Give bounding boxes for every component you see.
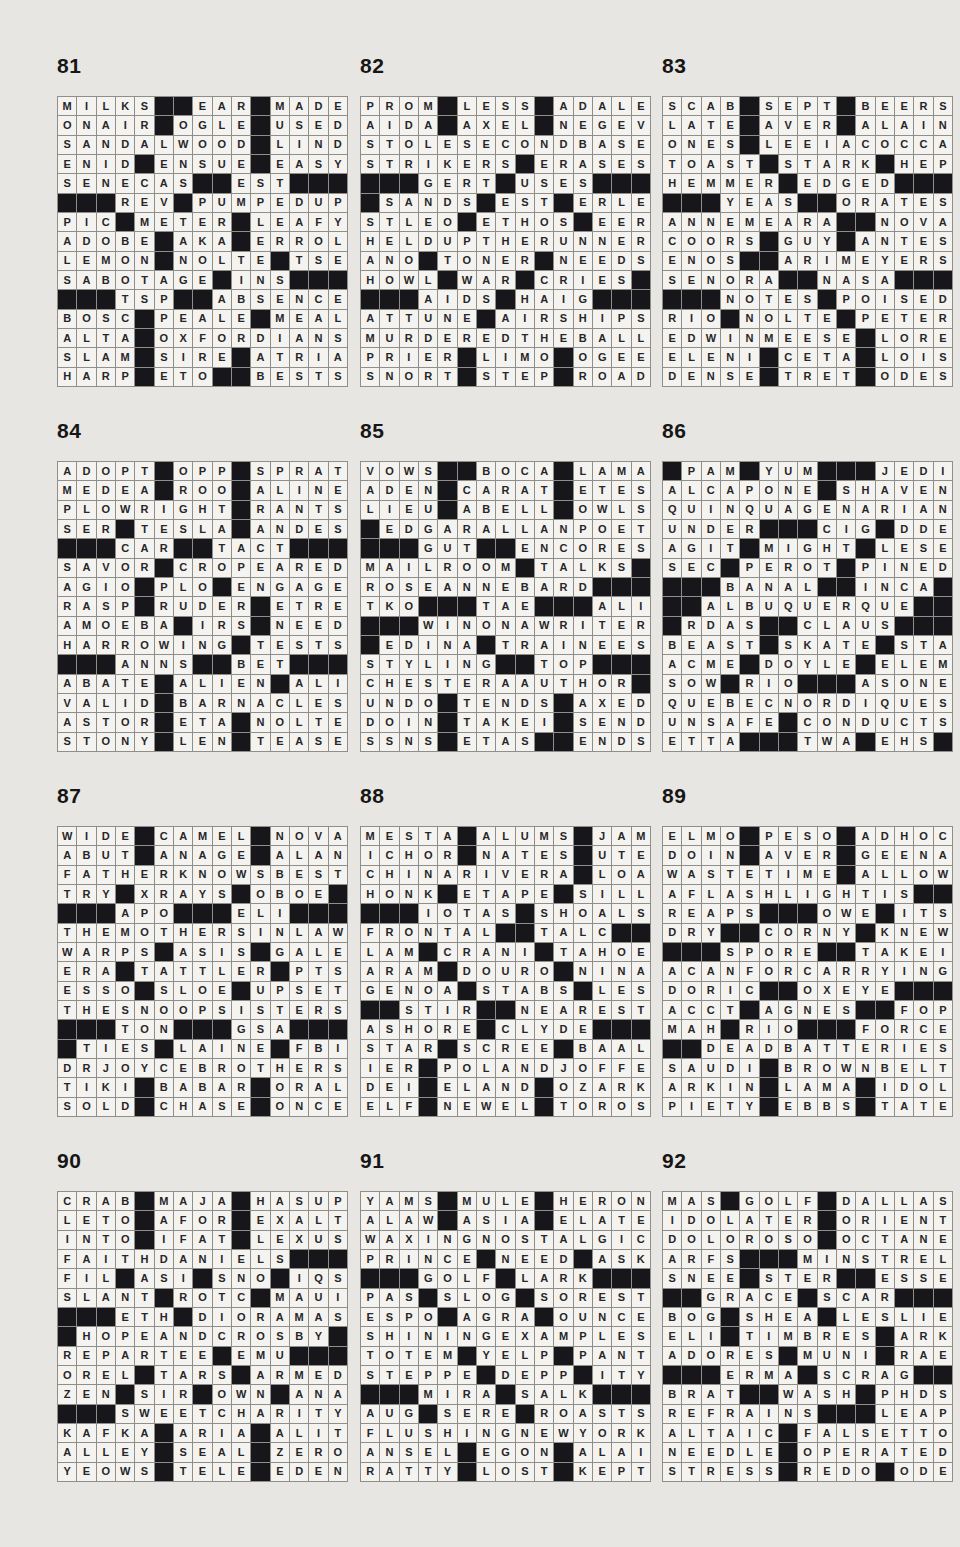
letter-cell: L	[496, 827, 514, 845]
letter-cell: O	[760, 962, 778, 980]
letter-cell: N	[438, 310, 456, 328]
letter-cell: L	[632, 1040, 650, 1058]
letter-cell: A	[380, 1231, 398, 1249]
letter-cell: T	[290, 597, 308, 615]
letter-cell: E	[174, 1059, 192, 1077]
letter-cell: H	[77, 1001, 95, 1019]
letter-cell: C	[496, 136, 514, 154]
letter-cell: S	[663, 1269, 681, 1287]
letter-cell: B	[663, 1385, 681, 1403]
letter-cell: E	[818, 368, 836, 386]
black-square	[290, 1020, 308, 1038]
letter-cell: I	[329, 1289, 347, 1307]
letter-cell: O	[380, 713, 398, 731]
letter-cell: Y	[329, 1405, 347, 1423]
letter-cell: I	[876, 1211, 894, 1229]
letter-cell: M	[58, 481, 76, 499]
letter-cell: A	[574, 1443, 592, 1461]
letter-cell: N	[740, 1078, 758, 1096]
letter-cell: B	[174, 694, 192, 712]
letter-cell: L	[58, 1211, 76, 1229]
letter-cell: P	[740, 481, 758, 499]
letter-cell: S	[309, 252, 327, 270]
letter-cell: E	[702, 348, 720, 366]
black-square	[663, 943, 681, 961]
letter-cell: T	[380, 310, 398, 328]
letter-cell: S	[779, 636, 797, 654]
letter-cell: E	[818, 1001, 836, 1019]
letter-cell: I	[400, 866, 418, 884]
letter-cell: D	[837, 1463, 855, 1481]
letter-cell: S	[174, 655, 192, 673]
letter-cell: M	[58, 97, 76, 115]
letter-cell: S	[632, 1098, 650, 1116]
letter-cell: G	[496, 1443, 514, 1461]
letter-cell: R	[798, 1463, 816, 1481]
letter-cell: L	[876, 866, 894, 884]
black-square	[663, 597, 681, 615]
black-square	[155, 943, 173, 961]
letter-cell: G	[77, 578, 95, 596]
letter-cell: R	[458, 943, 476, 961]
letter-cell: Y	[876, 252, 894, 270]
letter-cell: L	[496, 1192, 514, 1210]
letter-cell: F	[856, 1020, 874, 1038]
letter-cell: O	[135, 1020, 153, 1038]
black-square	[554, 462, 572, 480]
letter-cell: S	[58, 520, 76, 538]
letter-cell: S	[612, 1250, 630, 1268]
letter-cell: E	[77, 1347, 95, 1365]
black-square	[895, 617, 913, 635]
letter-cell: G	[213, 636, 231, 654]
letter-cell: D	[914, 1463, 932, 1481]
letter-cell: W	[663, 866, 681, 884]
letter-cell: A	[740, 1289, 758, 1307]
letter-cell: B	[477, 462, 495, 480]
black-square	[516, 924, 534, 942]
letter-cell: D	[760, 1040, 778, 1058]
letter-cell: E	[895, 252, 913, 270]
black-square	[438, 1308, 456, 1326]
letter-cell: C	[740, 982, 758, 1000]
letter-cell: N	[77, 1231, 95, 1249]
letter-cell: O	[496, 1463, 514, 1481]
letter-cell: A	[290, 1211, 308, 1229]
letter-cell: R	[251, 501, 269, 519]
letter-cell: D	[632, 694, 650, 712]
black-square	[97, 194, 115, 212]
letter-cell: C	[58, 1192, 76, 1210]
letter-cell: X	[818, 982, 836, 1000]
letter-cell: O	[58, 1366, 76, 1384]
letter-cell: H	[895, 155, 913, 173]
letter-cell: I	[934, 943, 952, 961]
letter-cell: M	[663, 1192, 681, 1210]
letter-cell: N	[876, 213, 894, 231]
letter-cell: G	[798, 539, 816, 557]
letter-cell: D	[400, 694, 418, 712]
letter-cell: E	[77, 252, 95, 270]
letter-cell: L	[612, 904, 630, 922]
letter-cell: R	[663, 1405, 681, 1423]
puzzle-number: 85	[360, 420, 651, 442]
black-square	[779, 1347, 797, 1365]
black-square	[438, 481, 456, 499]
black-square	[779, 617, 797, 635]
letter-cell: S	[934, 232, 952, 250]
letter-cell: N	[721, 846, 739, 864]
letter-cell: A	[290, 733, 308, 751]
letter-cell: E	[458, 1366, 476, 1384]
letter-cell: E	[271, 1463, 289, 1481]
black-square	[58, 1308, 76, 1326]
letter-cell: S	[329, 1308, 347, 1326]
letter-cell: I	[193, 617, 211, 635]
letter-cell: Y	[309, 1327, 327, 1345]
letter-cell: E	[914, 1040, 932, 1058]
letter-cell: A	[721, 617, 739, 635]
black-square	[632, 559, 650, 577]
letter-cell: O	[155, 904, 173, 922]
letter-cell: E	[612, 539, 630, 557]
letter-cell: A	[155, 174, 173, 192]
letter-cell: P	[419, 1366, 437, 1384]
letter-cell: T	[251, 1059, 269, 1077]
letter-cell: E	[934, 520, 952, 538]
